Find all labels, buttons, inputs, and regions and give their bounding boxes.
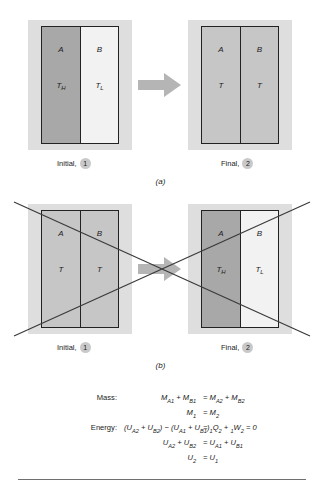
equation-row: Mass: MA1 + MB1 = MA2 + MB2 (0, 393, 321, 408)
caption-a-initial: Initial, 1 (57, 158, 91, 169)
equation-row: Energy: (UA2 + UB2) − (UA1 + UB1) = 1Q2 … (0, 423, 321, 438)
bottom-divider (18, 479, 306, 480)
equation-lhs: U2 (124, 453, 196, 464)
chamber-temperature: TH (42, 82, 80, 90)
chamber-temperature: T (241, 82, 278, 90)
equation-row: M1 = M2 (0, 408, 321, 423)
caption-text: Initial, (57, 343, 77, 352)
chamber-label: B (81, 230, 118, 238)
chamber-a-final-B: B T (240, 27, 278, 143)
chamber-a-initial-B: B TL (80, 27, 118, 143)
chamber-b-final-B: B TL (240, 211, 278, 327)
equation-lhs: MA1 + MB1 (124, 393, 196, 404)
equation-lhs: UA2 + UB2 (124, 438, 196, 449)
equation-tag: Energy: (0, 423, 124, 432)
equation-block: Mass: MA1 + MB1 = MA2 + MB2 M1 = M2 Ener… (0, 393, 321, 468)
chamber-temperature: T (81, 266, 118, 274)
caption-text: Final, (221, 343, 239, 352)
state-number-bubble: 1 (80, 158, 91, 169)
equation-row: U2 = U1 (0, 453, 321, 468)
chamber-temperature: T (202, 82, 240, 90)
vessel-a-initial: A TH B TL (41, 26, 119, 144)
chamber-label: A (202, 230, 240, 238)
chamber-label: A (42, 230, 80, 238)
chamber-label: B (81, 46, 118, 54)
equation-lhs: M1 (124, 408, 196, 419)
process-arrow-b (138, 256, 182, 286)
equation-rhs: = U1 (196, 453, 218, 464)
panel-letter-a: (a) (0, 177, 321, 186)
panel-a: A TH B TL A T B T (0, 12, 321, 190)
chamber-temperature: TL (81, 82, 118, 90)
equation-rhs: = MA2 + MB2 (196, 393, 245, 404)
caption-text: Initial, (57, 159, 77, 168)
equation-tag: Mass: (0, 393, 124, 402)
state-number-bubble: 2 (242, 158, 253, 169)
caption-text: Final, (221, 159, 239, 168)
chamber-label: A (202, 46, 240, 54)
caption-b-initial: Initial, 1 (57, 342, 91, 353)
vessel-b-final: A TH B TL (201, 210, 279, 328)
caption-a-final: Final, 2 (221, 158, 253, 169)
chamber-a-final-A: A T (202, 27, 240, 143)
chamber-label: B (241, 230, 278, 238)
chamber-label: B (241, 46, 278, 54)
process-arrow-a (138, 72, 182, 102)
chamber-b-final-A: A TH (202, 211, 240, 327)
caption-b-final: Final, 2 (221, 342, 253, 353)
vessel-a-final: A T B T (201, 26, 279, 144)
panel-b: A T B T A TH B TL (0, 196, 321, 361)
chamber-label: A (42, 46, 80, 54)
chamber-b-initial-B: B T (80, 211, 118, 327)
chamber-temperature: TL (241, 266, 278, 274)
equation-lhs: (UA2 + UB2) − (UA1 + UB1) (124, 423, 196, 434)
chamber-a-initial-A: A TH (42, 27, 80, 143)
thermodynamics-figure: A TH B TL A T B T (0, 0, 321, 500)
equation-row: UA2 + UB2 = UA1 + UB1 (0, 438, 321, 453)
equation-rhs: = 1Q2 + 1W2 = 0 (196, 423, 257, 434)
equation-rhs: = UA1 + UB1 (196, 438, 243, 449)
vessel-b-initial: A T B T (41, 210, 119, 328)
equation-rhs: = M2 (196, 408, 219, 419)
state-number-bubble: 1 (80, 342, 91, 353)
panel-letter-b: (b) (0, 361, 321, 370)
chamber-b-initial-A: A T (42, 211, 80, 327)
chamber-temperature: TH (202, 266, 240, 274)
chamber-temperature: T (42, 266, 80, 274)
state-number-bubble: 2 (242, 342, 253, 353)
